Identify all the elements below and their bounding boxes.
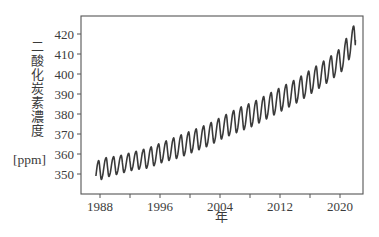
x-tick-label: 2012 (267, 199, 293, 214)
y-tick-label: 410 (55, 47, 75, 62)
y-tick-label: 370 (55, 127, 75, 142)
y-tick-label: 400 (55, 67, 75, 82)
y-axis-unit: [ppm] (13, 152, 46, 168)
y-tick-label: 390 (55, 87, 75, 102)
x-tick-label: 1996 (147, 199, 174, 214)
x-tick-label: 2020 (327, 199, 353, 214)
y-tick-label: 420 (55, 27, 75, 42)
y-axis: 350360370380390400410420 (55, 27, 82, 182)
y-tick-label: 350 (55, 167, 75, 182)
y-tick-label: 380 (55, 107, 75, 122)
x-tick-label: 1988 (87, 199, 113, 214)
y-axis-title: 二酸化炭素濃度 (26, 40, 44, 138)
y-tick-label: 360 (55, 147, 75, 162)
x-axis-title: 年 (215, 206, 228, 225)
co2-series-line (96, 26, 356, 180)
co2-line-chart: 350360370380390400410420 198819962004201… (0, 0, 379, 237)
